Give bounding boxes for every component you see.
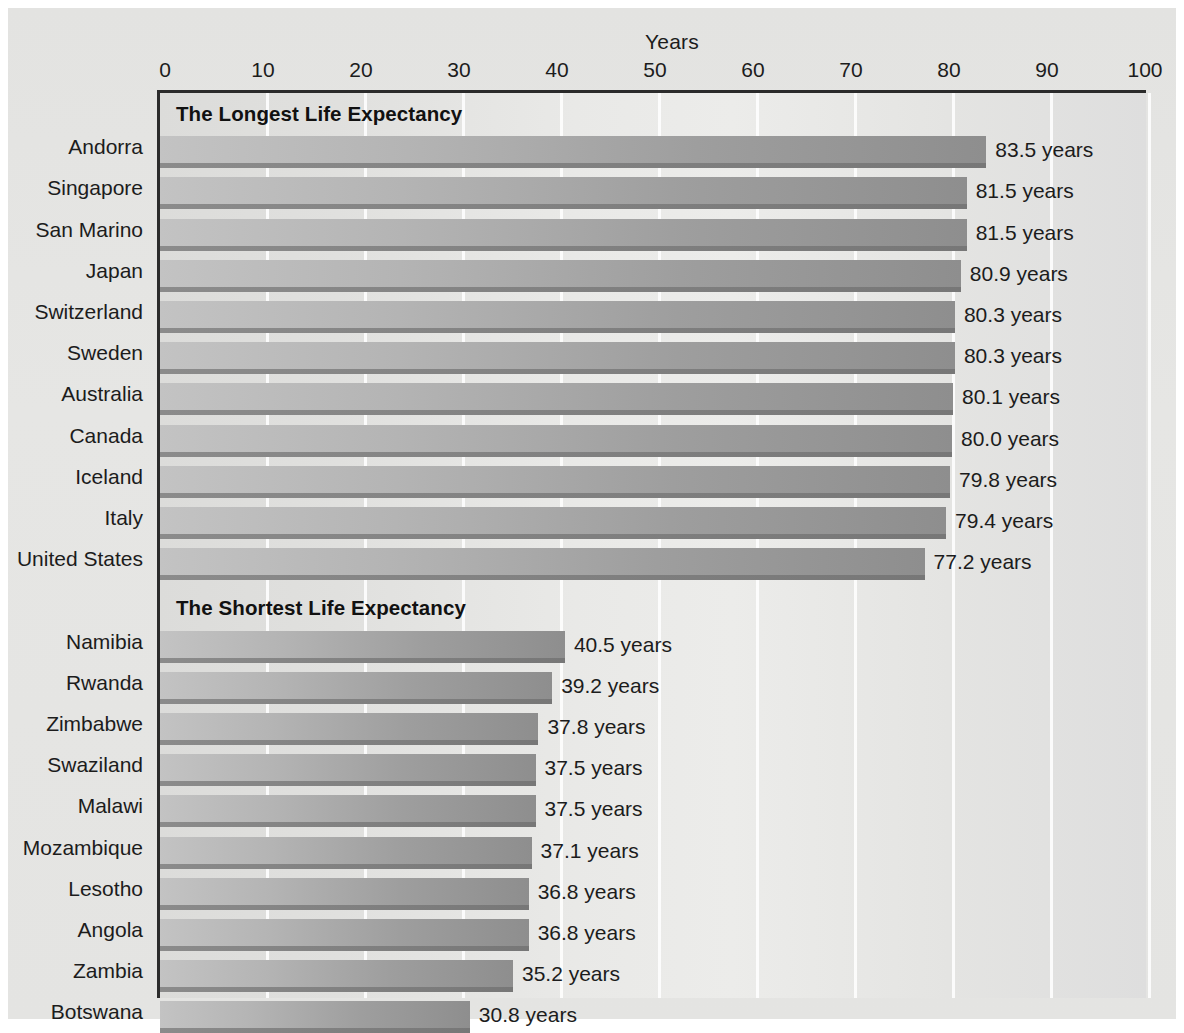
- bar[interactable]: [160, 795, 536, 822]
- bar[interactable]: [160, 260, 961, 287]
- x-tick-label: 60: [741, 58, 764, 82]
- bar-row[interactable]: 80.0 years: [160, 425, 1146, 452]
- bar-value-label: 83.5 years: [995, 138, 1093, 162]
- bar-row[interactable]: 81.5 years: [160, 177, 1146, 204]
- x-tick-label: 10: [251, 58, 274, 82]
- chart-figure: Years 0102030405060708090100 AndorraSing…: [8, 8, 1176, 1019]
- bar[interactable]: [160, 507, 946, 534]
- bar[interactable]: [160, 548, 925, 575]
- bar-value-label: 37.5 years: [545, 797, 643, 821]
- bar[interactable]: [160, 383, 953, 410]
- bar-value-label: 37.8 years: [547, 715, 645, 739]
- category-label: Singapore: [47, 176, 143, 200]
- bar-underline: [160, 575, 925, 580]
- bar-row[interactable]: 80.3 years: [160, 342, 1146, 369]
- bar[interactable]: [160, 136, 986, 163]
- bar-underline: [160, 699, 552, 704]
- x-tick-label: 20: [349, 58, 372, 82]
- x-axis-title: Years: [8, 30, 1176, 54]
- bar-row[interactable]: 77.2 years: [160, 548, 1146, 575]
- bar-value-label: 37.1 years: [541, 839, 639, 863]
- category-label: Angola: [78, 918, 143, 942]
- bar-row[interactable]: 37.8 years: [160, 713, 1146, 740]
- category-label: Mozambique: [23, 836, 143, 860]
- bar-underline: [160, 905, 529, 910]
- bar-value-label: 40.5 years: [574, 633, 672, 657]
- bar-underline: [160, 452, 952, 457]
- bar-value-label: 77.2 years: [934, 550, 1032, 574]
- x-tick-label: 70: [839, 58, 862, 82]
- bar-row[interactable]: 79.8 years: [160, 466, 1146, 493]
- bar-underline: [160, 493, 950, 498]
- bar[interactable]: [160, 960, 513, 987]
- bar[interactable]: [160, 919, 529, 946]
- bar-value-label: 79.4 years: [955, 509, 1053, 533]
- bar-underline: [160, 534, 946, 539]
- bar[interactable]: [160, 177, 967, 204]
- section-title: The Longest Life Expectancy: [176, 102, 462, 126]
- category-label: United States: [17, 547, 143, 571]
- bar[interactable]: [160, 878, 529, 905]
- x-tick-label: 0: [159, 58, 171, 82]
- bar-row[interactable]: 79.4 years: [160, 507, 1146, 534]
- category-label: Rwanda: [66, 671, 143, 695]
- bar-row[interactable]: 36.8 years: [160, 878, 1146, 905]
- bar[interactable]: [160, 466, 950, 493]
- bar-row[interactable]: 37.1 years: [160, 837, 1146, 864]
- bar-value-label: 81.5 years: [976, 179, 1074, 203]
- x-tick-label: 40: [545, 58, 568, 82]
- category-label: Sweden: [67, 341, 143, 365]
- bar-value-label: 36.8 years: [538, 880, 636, 904]
- bar-row[interactable]: 37.5 years: [160, 795, 1146, 822]
- bar-row[interactable]: 30.8 years: [160, 1001, 1146, 1028]
- section-title: The Shortest Life Expectancy: [176, 596, 466, 620]
- bar-underline: [160, 163, 986, 168]
- bar-row[interactable]: 37.5 years: [160, 754, 1146, 781]
- category-label: Swaziland: [47, 753, 143, 777]
- bar[interactable]: [160, 342, 955, 369]
- bar-underline: [160, 781, 536, 786]
- bar-row[interactable]: 80.1 years: [160, 383, 1146, 410]
- x-tick-label: 100: [1127, 58, 1162, 82]
- category-label: Lesotho: [68, 877, 143, 901]
- bar-row[interactable]: 39.2 years: [160, 672, 1146, 699]
- x-tick-label: 30: [447, 58, 470, 82]
- plot-area: The Longest Life Expectancy83.5 years81.…: [157, 90, 1146, 998]
- bar[interactable]: [160, 301, 955, 328]
- bar-underline: [160, 328, 955, 333]
- category-label: Zimbabwe: [46, 712, 143, 736]
- bar-row[interactable]: 81.5 years: [160, 219, 1146, 246]
- category-label: Canada: [69, 424, 143, 448]
- bar-underline: [160, 822, 536, 827]
- bar-value-label: 80.3 years: [964, 344, 1062, 368]
- bar-value-label: 35.2 years: [522, 962, 620, 986]
- bar-value-label: 80.0 years: [961, 427, 1059, 451]
- bar-underline: [160, 246, 967, 251]
- bar-value-label: 37.5 years: [545, 756, 643, 780]
- bar-row[interactable]: 83.5 years: [160, 136, 1146, 163]
- bar[interactable]: [160, 754, 536, 781]
- bar-value-label: 80.3 years: [964, 303, 1062, 327]
- bar-row[interactable]: 36.8 years: [160, 919, 1146, 946]
- x-tick-label: 50: [643, 58, 666, 82]
- bar[interactable]: [160, 425, 952, 452]
- category-label: Namibia: [66, 630, 143, 654]
- bar-value-label: 30.8 years: [479, 1003, 577, 1027]
- bar-row[interactable]: 35.2 years: [160, 960, 1146, 987]
- x-axis-tick-labels: 0102030405060708090100: [8, 58, 1176, 90]
- bar-value-label: 39.2 years: [561, 674, 659, 698]
- bar-underline: [160, 740, 538, 745]
- bar[interactable]: [160, 1001, 470, 1028]
- bar-underline: [160, 864, 532, 869]
- bar[interactable]: [160, 631, 565, 658]
- bar-underline: [160, 658, 565, 663]
- bar-underline: [160, 204, 967, 209]
- bar[interactable]: [160, 713, 538, 740]
- bar[interactable]: [160, 837, 532, 864]
- bar[interactable]: [160, 672, 552, 699]
- bar-row[interactable]: 80.3 years: [160, 301, 1146, 328]
- bar[interactable]: [160, 219, 967, 246]
- bar-row[interactable]: 40.5 years: [160, 631, 1146, 658]
- bar-value-label: 81.5 years: [976, 221, 1074, 245]
- bar-row[interactable]: 80.9 years: [160, 260, 1146, 287]
